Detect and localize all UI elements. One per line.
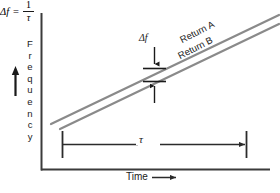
y-axis-label-letter: y — [28, 131, 33, 143]
diagram-canvas — [0, 0, 280, 193]
y-axis-direction-arrow — [12, 66, 19, 96]
x-axis-label: Time — [126, 172, 148, 182]
y-axis-label-letter: e — [27, 61, 32, 73]
return-b-line — [60, 24, 279, 129]
frequency-time-diagram: F r e q u e n c y Time Return A Return B… — [0, 0, 280, 193]
y-axis-label-letter: n — [27, 108, 32, 120]
delta-f-label: Δf — [139, 33, 148, 43]
y-axis-label-letter: F — [27, 38, 33, 50]
y-axis-label-letter: u — [27, 84, 32, 96]
y-axis-label-letter: r — [28, 50, 31, 62]
return-a-line — [51, 15, 279, 124]
y-axis-label-letter: c — [28, 119, 33, 131]
tau-dimension-bracket — [63, 131, 247, 158]
y-axis-label: F r e q u e n c y — [24, 38, 36, 142]
tau-label: τ — [136, 134, 146, 145]
y-axis-label-letter: q — [27, 73, 32, 85]
y-axis-label-letter: e — [27, 96, 32, 108]
